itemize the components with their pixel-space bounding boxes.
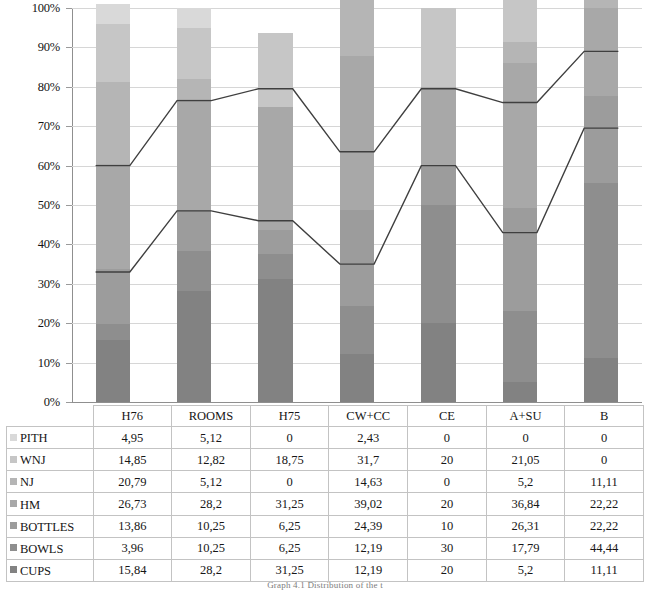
bar-group[interactable]: [340, 8, 374, 402]
bar-segment[interactable]: [340, 56, 374, 210]
bar-segment[interactable]: [258, 279, 292, 402]
table-column-header: B: [565, 406, 644, 427]
bar-segment[interactable]: [96, 324, 130, 340]
bar-segment[interactable]: [584, 0, 618, 8]
table-cell: 2,43: [329, 427, 408, 449]
legend-row-header[interactable]: HM: [7, 493, 94, 515]
bar-segment[interactable]: [177, 28, 211, 79]
table-cell: 20: [408, 559, 487, 581]
bar-segment[interactable]: [258, 33, 292, 107]
table-cell: 0: [408, 427, 487, 449]
table-cell: 10: [408, 515, 487, 537]
bar-segment[interactable]: [177, 99, 211, 210]
table-cell: 31,7: [329, 449, 408, 471]
table-column-header: H75: [250, 406, 329, 427]
bar-segment[interactable]: [340, 210, 374, 306]
table-cell: 12,19: [329, 537, 408, 559]
bar-segment[interactable]: [177, 291, 211, 402]
table-cell: 20: [408, 449, 487, 471]
bar-segment[interactable]: [96, 4, 130, 24]
table-row: WNJ14,8512,8218,7531,72021,050: [7, 449, 644, 471]
bar-segment[interactable]: [503, 311, 537, 381]
bar-segment[interactable]: [584, 96, 618, 184]
bar-segment[interactable]: [177, 8, 211, 28]
y-axis-tick-label: 50%: [38, 198, 60, 213]
bar-segment[interactable]: [340, 0, 374, 56]
table-head: H76ROOMSH75CW+CCCEA+SUB: [7, 406, 644, 427]
stacked-bar-chart: 0%10%20%30%40%50%60%70%80%90%100%: [0, 0, 650, 410]
bar-segment[interactable]: [503, 63, 537, 208]
bar-segment[interactable]: [340, 354, 374, 402]
table-cell: 0: [250, 427, 329, 449]
bar-segment[interactable]: [177, 79, 211, 99]
bar-segment[interactable]: [421, 323, 455, 402]
table-cell: 11,11: [565, 559, 644, 581]
legend-series-label: CUPS: [20, 561, 51, 581]
bar-segment[interactable]: [258, 230, 292, 255]
y-axis-tick-label: 60%: [38, 158, 60, 173]
table-cell: 5,2: [486, 559, 565, 581]
bar-group[interactable]: [503, 8, 537, 402]
table-cell: 0: [486, 427, 565, 449]
bar-segment[interactable]: [177, 210, 211, 250]
bar-segment[interactable]: [96, 82, 130, 164]
legend-row-header[interactable]: BOTTLES: [7, 515, 94, 537]
bar-segment[interactable]: [503, 208, 537, 312]
bar-segment[interactable]: [258, 254, 292, 279]
legend-swatch-icon: [10, 544, 17, 551]
legend-row-header[interactable]: PITH: [7, 427, 94, 449]
bar-group[interactable]: [258, 8, 292, 402]
bar-group[interactable]: [421, 8, 455, 402]
bar-segment[interactable]: [96, 164, 130, 269]
legend-row-header[interactable]: BOWLS: [7, 537, 94, 559]
table-cell: 12,19: [329, 559, 408, 581]
table-column-header: CW+CC: [329, 406, 408, 427]
table-cell: 22,22: [565, 515, 644, 537]
bar-segment[interactable]: [503, 382, 537, 402]
table-cell: 5,12: [172, 471, 251, 493]
legend-row-header[interactable]: NJ: [7, 471, 94, 493]
table-cell: 6,25: [250, 515, 329, 537]
table-column-header: ROOMS: [172, 406, 251, 427]
bar-segment[interactable]: [421, 8, 455, 87]
table-row: CUPS15,8428,231,2512,19205,211,11: [7, 559, 644, 581]
y-axis-tick-label: 100%: [32, 1, 60, 16]
bar-segment[interactable]: [96, 24, 130, 83]
table-column-header: A+SU: [486, 406, 565, 427]
gridline-0%: [72, 402, 642, 403]
table-cell: 10,25: [172, 537, 251, 559]
bar-group[interactable]: [177, 8, 211, 402]
bar-segment[interactable]: [584, 358, 618, 402]
table-cell: 6,25: [250, 537, 329, 559]
bar-segment[interactable]: [177, 251, 211, 291]
table-cell: 0: [250, 471, 329, 493]
table-cell: 0: [565, 427, 644, 449]
bar-series-layer: [72, 8, 642, 402]
bar-segment[interactable]: [421, 205, 455, 323]
table-cell: 20,79: [93, 471, 172, 493]
table-cell: 17,79: [486, 537, 565, 559]
y-axis-tick-label: 70%: [38, 119, 60, 134]
bar-segment[interactable]: [503, 42, 537, 62]
bar-segment[interactable]: [421, 87, 455, 166]
legend-swatch-icon: [10, 500, 17, 507]
table-cell: 10,25: [172, 515, 251, 537]
table-row: BOTTLES13,8610,256,2524,391026,3122,22: [7, 515, 644, 537]
table-cell: 28,2: [172, 559, 251, 581]
bar-segment[interactable]: [421, 166, 455, 205]
bar-segment[interactable]: [584, 8, 618, 96]
bar-segment[interactable]: [258, 107, 292, 230]
bar-group[interactable]: [584, 8, 618, 402]
bar-segment[interactable]: [340, 306, 374, 354]
legend-row-header[interactable]: WNJ: [7, 449, 94, 471]
table-cell: 5,12: [172, 427, 251, 449]
bar-group[interactable]: [96, 8, 130, 402]
legend-row-header[interactable]: CUPS: [7, 559, 94, 581]
bar-segment[interactable]: [584, 183, 618, 358]
y-axis-tick-label: 30%: [38, 276, 60, 291]
bar-segment[interactable]: [96, 340, 130, 402]
table-cell: 11,11: [565, 471, 644, 493]
bar-segment[interactable]: [503, 0, 537, 42]
bar-segment[interactable]: [96, 269, 130, 324]
table-row: PITH4,955,1202,43000: [7, 427, 644, 449]
